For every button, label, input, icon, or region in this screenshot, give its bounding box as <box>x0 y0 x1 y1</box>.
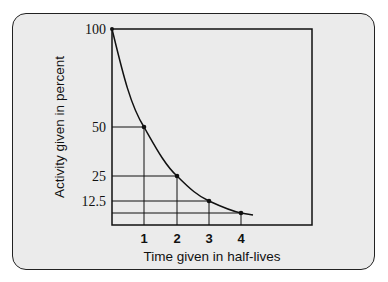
y-tick-50: 50 <box>92 120 106 135</box>
x-tick-4: 4 <box>237 231 245 246</box>
y-axis-label: Activity given in percent <box>52 56 67 198</box>
x-axis-label: Time given in half-lives <box>144 249 281 264</box>
x-tick-2: 2 <box>173 231 180 246</box>
y-tick-25: 25 <box>92 169 106 184</box>
decay-curve <box>112 29 253 215</box>
y-tick-100: 100 <box>85 22 106 37</box>
y-tick-12-5: 12.5 <box>82 194 107 209</box>
x-tick-3: 3 <box>205 231 212 246</box>
x-tick-1: 1 <box>140 231 147 246</box>
decay-chart: 100 50 25 12.5 1 2 3 4 Time given in hal… <box>0 0 388 282</box>
